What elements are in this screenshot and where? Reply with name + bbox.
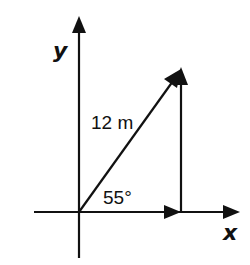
y-axis-arrow-icon <box>72 16 86 33</box>
magnitude-label: 12 m <box>91 112 133 133</box>
resultant-arrow-icon <box>164 69 181 88</box>
y-axis <box>72 16 86 258</box>
y-component-vector <box>174 67 188 212</box>
x-axis-label: x <box>222 220 238 245</box>
x-axis-arrow-icon <box>223 205 240 219</box>
angle-label: 55° <box>103 187 132 208</box>
vector-diagram: y x 12 m 55° <box>0 0 250 265</box>
y-axis-label: y <box>53 38 69 63</box>
x-component-arrow-icon <box>164 205 181 219</box>
